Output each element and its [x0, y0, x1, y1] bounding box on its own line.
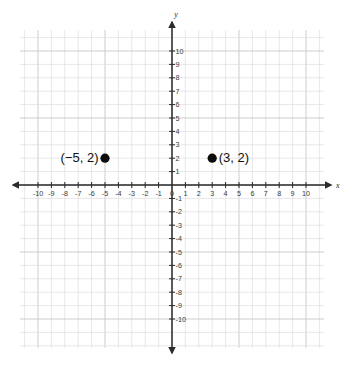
x-tick-label: 0 [170, 189, 174, 198]
x-tick-label: 3 [210, 189, 214, 198]
y-tick-label: -2 [176, 207, 182, 216]
x-tick-label: -3 [129, 189, 135, 198]
x-tick-label: 2 [197, 189, 201, 198]
point-coordinate-label: (3, 2) [219, 150, 249, 165]
x-tick-label: -5 [102, 189, 108, 198]
x-tick-label: -1 [155, 189, 161, 198]
y-axis-name-label: y [173, 10, 178, 19]
x-tick-label: -4 [115, 189, 121, 198]
y-tick-label: 2 [176, 154, 180, 163]
x-tick-label: 9 [291, 189, 295, 198]
point-coordinate-label: (−5, 2) [61, 150, 99, 165]
y-tick-label: -8 [176, 288, 182, 297]
x-tick-label: 6 [250, 189, 254, 198]
y-tick-label: -5 [176, 248, 182, 257]
y-tick-label: -4 [176, 234, 182, 243]
y-tick-label: -3 [176, 221, 182, 230]
x-tick-label: 7 [264, 189, 268, 198]
y-tick-label: 4 [176, 127, 180, 136]
x-axis-name-label: x [335, 181, 340, 190]
x-tick-label: 8 [277, 189, 281, 198]
y-tick-label: 3 [176, 140, 180, 149]
y-tick-label: 9 [176, 60, 180, 69]
x-tick-label: -2 [142, 189, 148, 198]
coordinate-plane-figure: -10-9-8-7-6-5-4-3-2-1012345678910 -10-9-… [0, 0, 345, 377]
x-tick-label: -10 [33, 189, 43, 198]
x-tick-label: 1 [183, 189, 187, 198]
y-tick-label: 10 [176, 47, 184, 56]
y-tick-label: 1 [176, 167, 180, 176]
x-tick-label: -7 [75, 189, 81, 198]
y-tick-label: 6 [176, 100, 180, 109]
y-tick-label: 8 [176, 73, 180, 82]
y-tick-label: -7 [176, 274, 182, 283]
x-tick-label: 10 [302, 189, 310, 198]
plotted-point [100, 154, 109, 163]
x-tick-label: 4 [224, 189, 228, 198]
y-tick-label: -9 [176, 301, 182, 310]
x-tick-label: -8 [62, 189, 68, 198]
y-tick-label: -6 [176, 261, 182, 270]
y-tick-label: 5 [176, 114, 180, 123]
plotted-point [208, 154, 217, 163]
y-tick-label: 7 [176, 87, 180, 96]
x-tick-label: -6 [88, 189, 94, 198]
x-tick-label: 5 [237, 189, 241, 198]
y-tick-label: -1 [176, 194, 182, 203]
x-tick-label: -9 [48, 189, 54, 198]
coordinate-plane-svg: -10-9-8-7-6-5-4-3-2-1012345678910 -10-9-… [0, 0, 345, 377]
y-tick-label: -10 [176, 315, 186, 324]
